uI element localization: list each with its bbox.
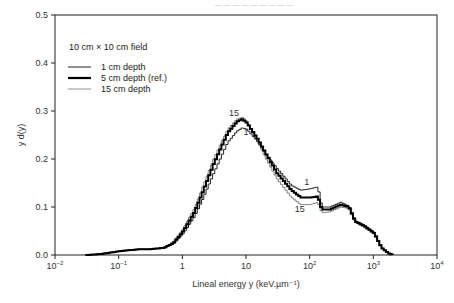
y-tick-label: 0.3 bbox=[35, 106, 48, 116]
curve-5-cm-depth-ref bbox=[85, 119, 392, 255]
y-tick-label: 0.0 bbox=[35, 250, 48, 260]
curve-annotation: 1 bbox=[243, 127, 248, 137]
top-caption-partial: — — — — — — — — — bbox=[215, 1, 294, 8]
legend-label-5cm: 5 cm depth (ref.) bbox=[101, 73, 167, 83]
curve-annotation: 15 bbox=[295, 204, 305, 214]
x-axis: 10−210−1110102103104 bbox=[47, 255, 445, 271]
x-axis-title: Lineal energy y (keV.µm⁻¹) bbox=[192, 279, 299, 289]
x-tick-label: 10−1 bbox=[110, 260, 128, 271]
chart-canvas: — — — — — — — — — 0.00.10.20.30.40.5 10−… bbox=[0, 0, 454, 303]
x-tick-label: 104 bbox=[430, 260, 444, 271]
legend-label-15cm: 15 cm depth bbox=[101, 84, 151, 94]
legend-label-1cm: 1 cm depth bbox=[101, 62, 146, 72]
y-tick-label: 0.2 bbox=[35, 154, 48, 164]
x-tick-label: 10−2 bbox=[47, 260, 65, 271]
y-axis: 0.00.10.20.30.40.5 bbox=[35, 10, 55, 260]
curve-1-cm-depth bbox=[85, 128, 392, 255]
curve-annotation: 15 bbox=[229, 108, 239, 118]
y-tick-label: 0.1 bbox=[35, 202, 48, 212]
x-tick-label: 10 bbox=[241, 261, 251, 271]
x-tick-label: 102 bbox=[303, 260, 317, 271]
y-tick-label: 0.4 bbox=[35, 58, 48, 68]
curve-annotation: 1 bbox=[304, 177, 309, 187]
curve-15-cm-depth bbox=[85, 117, 392, 255]
x-tick-label: 1 bbox=[180, 261, 185, 271]
legend-title: 10 cm × 10 cm field bbox=[69, 42, 147, 52]
x-tick-label: 103 bbox=[367, 260, 381, 271]
y-axis-title: y d(y) bbox=[16, 124, 26, 147]
legend: 10 cm × 10 cm field 1 cm depth 5 cm dept… bbox=[68, 42, 167, 94]
y-tick-label: 0.5 bbox=[35, 10, 48, 20]
curves bbox=[85, 117, 392, 255]
